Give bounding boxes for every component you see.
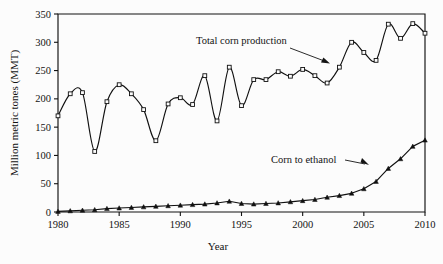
annotation-arrow-production [321,58,330,64]
data-point-marker [93,150,97,154]
x-axis-title: Year [208,240,229,252]
y-tick-label: 150 [35,122,51,133]
chart-figure: 0501001502002503003501980198519901995200… [0,0,443,264]
data-point-marker [423,138,428,142]
data-point-marker [350,40,354,44]
annotation-leader-production [290,48,327,62]
y-tick-label: 50 [41,178,52,189]
x-tick-label: 2005 [353,219,374,230]
data-point-marker [227,65,231,69]
data-point-marker [154,139,158,143]
data-point-marker [117,83,121,87]
data-point-marker [191,103,195,107]
data-point-marker [252,78,256,82]
data-point-marker [289,74,293,78]
annotation-label-ethanol: Corn to ethanol [271,154,336,165]
data-point-marker [142,108,146,112]
annotation-label-production: Total corn production [196,35,288,46]
x-tick-label: 1995 [231,219,252,230]
y-axis-title: Million metric tones (MMT) [8,50,21,177]
data-point-marker [203,74,207,78]
data-point-marker [130,92,134,96]
data-point-marker [301,68,305,72]
data-point-marker [68,92,72,96]
data-point-marker [399,36,403,40]
data-point-marker [386,22,390,26]
data-point-marker [166,102,170,106]
data-point-marker [374,58,378,62]
x-tick-label: 1980 [48,219,69,230]
x-tick-label: 1985 [109,219,130,230]
data-point-marker [178,96,182,100]
data-point-marker [313,74,317,78]
x-tick-label: 2010 [415,219,436,230]
y-tick-label: 350 [35,9,51,20]
data-point-marker [105,100,109,104]
data-point-marker [81,91,85,95]
data-point-marker [423,31,427,35]
y-tick-label: 300 [35,37,51,48]
x-tick-label: 1990 [170,219,191,230]
y-tick-label: 100 [35,150,51,161]
data-point-marker [362,51,366,55]
data-point-marker [276,70,280,74]
data-point-marker [325,81,329,85]
y-tick-label: 250 [35,65,51,76]
x-tick-label: 2000 [292,219,313,230]
y-tick-label: 200 [35,93,51,104]
data-point-marker [264,78,268,82]
data-point-marker [337,65,341,69]
y-tick-label: 0 [46,207,51,218]
data-point-marker [411,22,415,26]
data-point-marker [240,104,244,108]
data-point-marker [362,187,367,191]
data-point-marker [215,119,219,123]
line-chart-plot: 0501001502002503003501980198519901995200… [0,0,443,264]
data-point-marker [56,114,60,118]
